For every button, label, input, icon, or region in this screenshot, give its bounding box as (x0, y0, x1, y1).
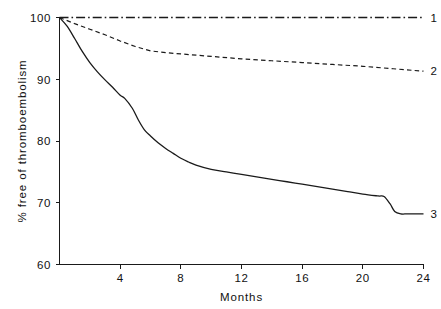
x-tick-label-4: 4 (117, 272, 124, 284)
x-tick-label-12: 12 (235, 272, 249, 284)
x-axis-title: Months (220, 291, 263, 303)
chart-background (0, 0, 441, 309)
series-label-3: 3 (431, 208, 437, 220)
y-tick-label-80: 80 (37, 135, 51, 147)
y-axis-title: % free of thromboembolism (16, 59, 28, 222)
y-tick-label-90: 90 (37, 74, 51, 86)
x-tick-label-20: 20 (356, 272, 370, 284)
x-tick-label-24: 24 (417, 272, 431, 284)
series-label-2: 2 (431, 65, 437, 77)
thromboembolism-freedom-line-chart: 100 90 80 70 60 4 8 12 16 20 24 Months %… (0, 0, 441, 309)
chart-figure: 100 90 80 70 60 4 8 12 16 20 24 Months %… (0, 0, 441, 309)
y-tick-label-70: 70 (37, 197, 51, 209)
y-tick-label-100: 100 (30, 12, 51, 24)
x-tick-label-16: 16 (295, 272, 309, 284)
y-tick-label-60: 60 (37, 259, 51, 271)
x-tick-label-8: 8 (177, 272, 184, 284)
series-label-1: 1 (431, 12, 437, 24)
